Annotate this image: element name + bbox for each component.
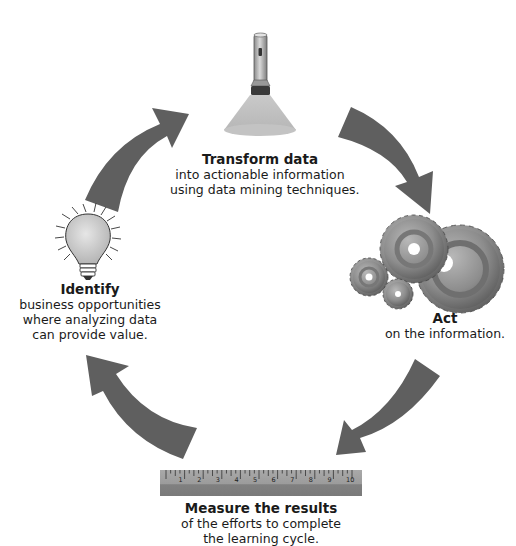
ruler-number: 2 xyxy=(197,476,201,484)
step-transform-title: Transform data xyxy=(170,152,350,167)
gears-icon xyxy=(350,215,504,313)
step-transform-label: Transform data into actionable informati… xyxy=(170,152,350,197)
step-identify-line-2: where analyzing data xyxy=(0,312,180,327)
step-identify-line-3: can provide value. xyxy=(0,327,180,342)
ruler-icon: 12345678910 xyxy=(160,470,362,496)
ruler-number: 9 xyxy=(327,476,331,484)
ruler-number: 10 xyxy=(346,476,354,484)
step-act-label: Act on the information. xyxy=(380,311,510,341)
ruler-number: 7 xyxy=(290,476,294,484)
step-identify-line-1: business opportunities xyxy=(0,297,180,312)
ruler-number: 8 xyxy=(309,476,313,484)
ruler-number: 3 xyxy=(216,476,220,484)
step-measure-label: Measure the results of the efforts to co… xyxy=(160,501,362,546)
lightbulb-icon xyxy=(55,203,121,280)
step-transform-line-2: using data mining techniques. xyxy=(170,182,350,197)
step-measure-title: Measure the results xyxy=(160,501,362,516)
diagram-graphics: 12345678910 xyxy=(0,0,516,546)
step-transform-line-1: into actionable information xyxy=(170,167,350,182)
step-identify-title: Identify xyxy=(0,282,180,297)
ruler-number: 6 xyxy=(272,476,276,484)
ruler-number: 5 xyxy=(253,476,257,484)
step-identify-label: Identify business opportunities where an… xyxy=(0,282,180,342)
flashlight-icon xyxy=(224,33,296,136)
cycle-arrow-act-to-measure xyxy=(336,359,440,455)
step-measure-line-1: of the efforts to complete xyxy=(160,516,362,531)
step-act-title: Act xyxy=(380,311,510,326)
ruler-number: 4 xyxy=(234,476,238,484)
step-act-line-1: on the information. xyxy=(380,326,510,341)
step-measure-line-2: the learning cycle. xyxy=(160,531,362,546)
cycle-arrow-measure-to-identify xyxy=(86,355,197,459)
cycle-arrow-transform-to-act xyxy=(338,107,433,214)
ruler-number: 1 xyxy=(179,476,183,484)
learning-cycle-diagram: 12345678910 Transform data into actionab… xyxy=(0,0,516,546)
